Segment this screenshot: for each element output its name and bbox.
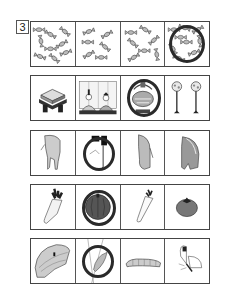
horse-rear-icon [31,131,75,175]
choice-animal-with-tail[interactable] [76,131,121,175]
choice-chrysalis[interactable] [76,239,121,283]
choice-caterpillar[interactable] [121,239,166,283]
choice-horse-rear[interactable] [31,131,76,175]
elephant-rear-icon [121,131,165,175]
choice-elephant-rear[interactable] [121,131,166,175]
answer-row-candy [30,21,210,67]
cabbage-leaf-icon [31,239,75,283]
choice-candies-few[interactable] [76,22,121,66]
candies-icon [76,22,120,66]
choice-candies-many[interactable] [31,22,76,66]
answer-circle-mark [169,25,205,63]
choice-tomato[interactable] [165,185,209,229]
choice-decorative-basket[interactable] [121,76,166,120]
caterpillar-icon [121,239,165,283]
choice-daikon-radish[interactable] [31,185,76,229]
candies-icon [121,22,165,66]
bonbori-lamps-icon [165,76,209,120]
daikon-radish-icon [31,185,75,229]
choice-hishimochi-stand[interactable] [31,76,76,120]
choice-hina-dolls[interactable] [76,76,121,120]
answer-circle-mark [82,245,114,278]
answer-row-butterfly-life-cycle [30,238,210,284]
candies-icon [31,22,75,66]
choice-candies-medium[interactable] [121,22,166,66]
answer-circle-mark [127,79,161,117]
tomato-icon [165,185,209,229]
choice-butterfly[interactable] [165,239,209,283]
choice-bear-rear[interactable] [165,131,209,175]
question-number: 3 [16,20,29,34]
bear-rear-icon [165,131,209,175]
choice-cabbage-leaf-egg[interactable] [31,239,76,283]
choice-candies-cluster[interactable] [165,22,209,66]
choice-pumpkin[interactable] [76,185,121,229]
hishimochi-stand-icon [31,76,75,120]
carrot-icon [121,185,165,229]
butterfly-icon [165,239,209,283]
hina-dolls-icon [76,76,120,120]
choice-bonbori-lamps[interactable] [165,76,209,120]
answer-row-vegetables [30,184,210,230]
choice-carrot[interactable] [121,185,166,229]
answer-circle-mark [82,190,116,226]
answer-row-animal-rears [30,130,210,176]
answer-circle-mark [83,137,115,171]
answer-row-hina-matsuri [30,75,210,121]
